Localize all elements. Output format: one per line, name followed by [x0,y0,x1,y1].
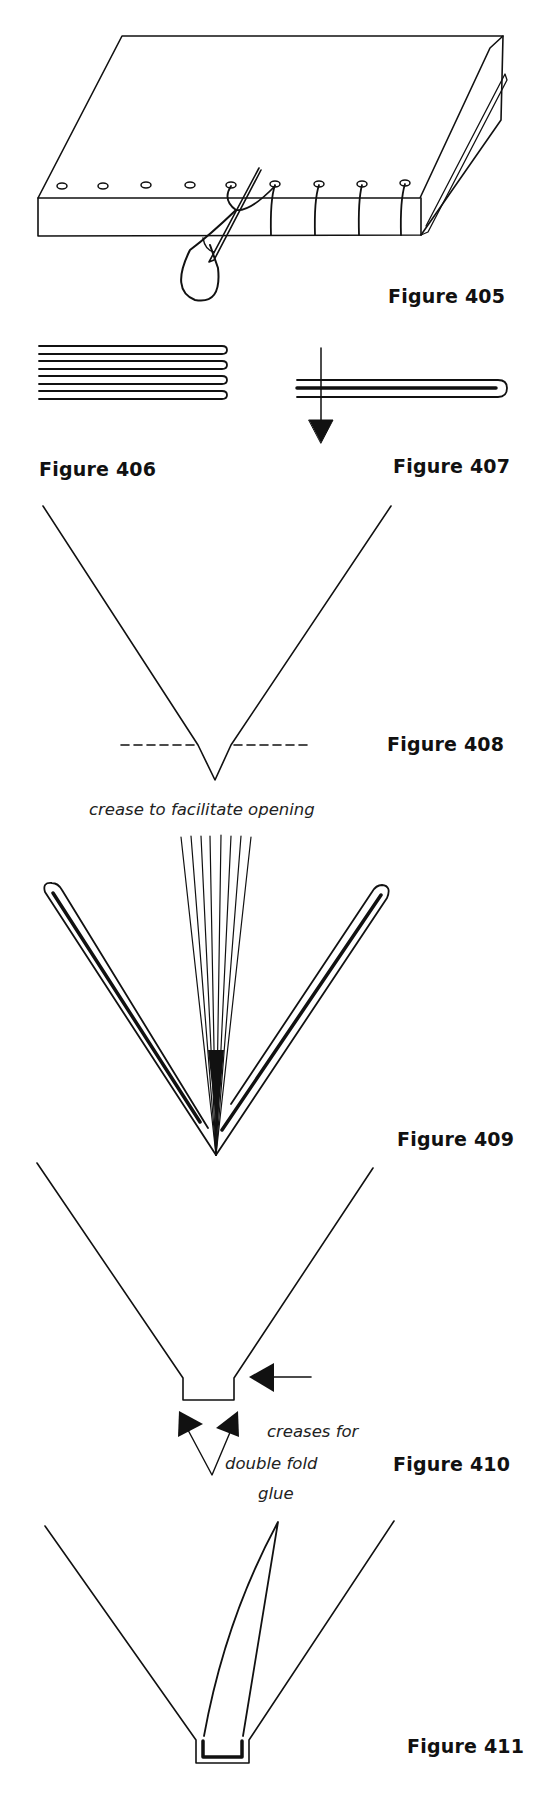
figure-405-drawing [38,36,507,301]
threads [227,184,405,235]
figure-410-caption-line2: double fold [225,1454,317,1473]
figure-405-label: Figure 405 [388,285,505,307]
figure-409-drawing [44,835,388,1155]
figure-408-drawing [43,506,391,780]
figure-411-drawing [45,1521,394,1763]
figure-411-label: Figure 411 [407,1735,524,1757]
figures-artwork [0,0,554,1800]
figure-410-label: Figure 410 [393,1453,510,1475]
sewing-holes [57,180,410,189]
figure-406-drawing [39,346,227,399]
figure-407-label: Figure 407 [393,455,510,477]
needle [209,168,261,262]
figure-408-caption: crease to facilitate opening [89,800,315,819]
figure-407-drawing [297,348,507,443]
figure-409-label: Figure 409 [397,1128,514,1150]
figure-406-label: Figure 406 [39,458,156,480]
figure-411-caption: glue [258,1484,294,1503]
figure-410-caption-line1: creases for [267,1422,358,1441]
figure-408-label: Figure 408 [387,733,504,755]
